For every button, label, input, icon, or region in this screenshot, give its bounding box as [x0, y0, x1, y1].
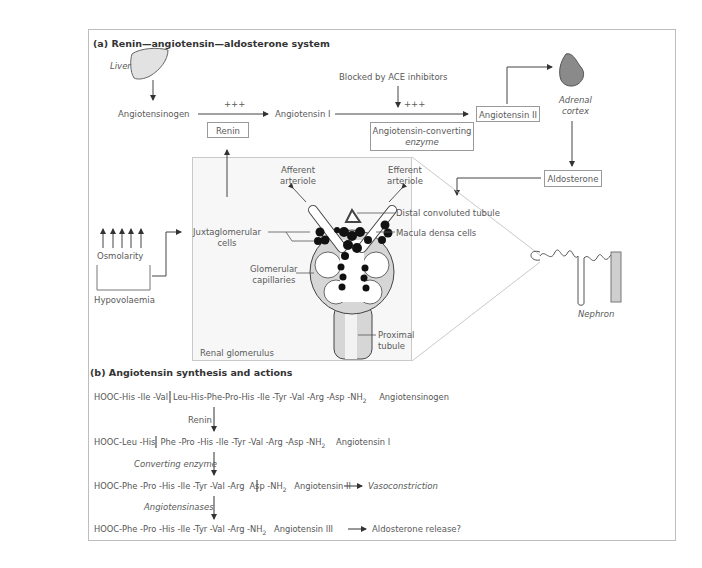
macula-densa-label: Macula densa cells	[396, 229, 476, 238]
sequence-row-angiotensin-ii: HOOC-Phe -Pro -His -Ile -Tyr -Val -ArgAs…	[94, 482, 351, 493]
proximal-line2: tubule	[378, 341, 414, 352]
renal-glomerulus-label: Renal glomerulus	[200, 349, 274, 358]
osmolarity-label: Osmolarity	[97, 252, 143, 261]
seq-sub: 2	[363, 397, 367, 404]
seq-left: HOOC-Leu -His	[94, 437, 155, 447]
efferent-arteriole-label: Efferent arteriole	[387, 165, 423, 187]
glomerular-capillaries-label: Glomerular capillaries	[250, 264, 298, 286]
seq-name: Angiotensin I	[336, 437, 390, 447]
angiotensin-ii-box: Angiotensin II	[476, 106, 540, 122]
plus-renin: +++	[224, 100, 245, 109]
effect-vasoconstriction: Vasoconstriction	[368, 482, 438, 491]
nephron-icon	[531, 250, 621, 305]
angiotensin-i-label: Angiotensin I	[275, 110, 331, 119]
seq-name: Angiotensinogen	[379, 392, 449, 402]
seq-right: Asp -NH	[249, 481, 282, 491]
seq-sub: 2	[322, 442, 326, 449]
sequence-row-angiotensinogen: HOOC-His -Ile -ValLeu-His-Phe-Pro-His -I…	[94, 393, 449, 404]
effect-aldosterone-release: Aldosterone release?	[372, 525, 461, 534]
juxta-line1: Juxtaglomerular	[193, 227, 261, 238]
proximal-line1: Proximal	[378, 330, 414, 341]
seq-sub: 2	[283, 486, 287, 493]
adrenal-line1: Adrenal	[559, 95, 592, 106]
seq-right: Leu-His-Phe-Pro-His -Ile -Tyr -Val -Arg …	[173, 392, 363, 402]
ace-box: Angiotensin-converting enzyme	[370, 122, 474, 151]
proximal-tubule-label: Proximal tubule	[378, 330, 414, 352]
efferent-line1: Efferent	[387, 165, 423, 176]
angiotensin-ii-label: Angiotensin II	[479, 110, 537, 120]
seq-sub: 2	[263, 529, 267, 536]
aldosterone-box: Aldosterone	[544, 170, 602, 187]
adrenal-cortex-label: Adrenal cortex	[559, 95, 592, 117]
adrenal-line2: cortex	[559, 106, 592, 117]
glom-line2: capillaries	[250, 275, 298, 286]
panel-b-title: (b) Angiotensin synthesis and actions	[90, 368, 293, 378]
aldosterone-label: Aldosterone	[548, 174, 599, 184]
ace-line2: enzyme	[371, 137, 473, 148]
seq-left: HOOC-Phe -Pro -His -Ile -Tyr -Val -Arg -…	[94, 524, 263, 534]
efferent-line2: arteriole	[387, 176, 423, 187]
afferent-arteriole-label: Afferent arteriole	[280, 165, 316, 187]
sequence-row-angiotensin-i: HOOC-Leu -HisPhe -Pro -His -Ile -Tyr -Va…	[94, 438, 390, 449]
afferent-line1: Afferent	[280, 165, 316, 176]
distal-tubule-label: Distal convoluted tubule	[396, 209, 500, 218]
enzyme-renin: Renin	[188, 416, 212, 425]
afferent-line2: arteriole	[280, 176, 316, 187]
juxtaglomerular-label: Juxtaglomerular cells	[193, 227, 261, 249]
liver-label: Liver	[110, 62, 131, 71]
juxta-line2: cells	[193, 238, 261, 249]
ace-inhibitors-label: Blocked by ACE inhibitors	[339, 73, 448, 82]
adrenal-gland-icon	[560, 54, 584, 86]
renin-box: Renin	[207, 122, 249, 138]
plus-ace: +++	[404, 100, 425, 109]
enzyme-converting: Converting enzyme	[134, 460, 217, 469]
seq-name: Angiotensin III	[274, 524, 333, 534]
nephron-label: Nephron	[578, 310, 614, 319]
sequence-row-angiotensin-iii: HOOC-Phe -Pro -His -Ile -Tyr -Val -Arg -…	[94, 525, 333, 536]
angiotensinogen-label: Angiotensinogen	[118, 110, 190, 119]
seq-left: HOOC-His -Ile -Val	[94, 392, 168, 402]
seq-right: Phe -Pro -His -Ile -Tyr -Val -Arg -Asp -…	[160, 437, 321, 447]
glom-line1: Glomerular	[250, 264, 298, 275]
enzyme-angiotensinases: Angiotensinases	[144, 503, 214, 512]
seq-left: HOOC-Phe -Pro -His -Ile -Tyr -Val -Arg	[94, 481, 244, 491]
liver-icon	[131, 48, 168, 79]
ace-line1: Angiotensin-converting	[371, 126, 473, 137]
seq-name: Angiotensin II	[294, 481, 351, 491]
hypovolaemia-label: Hypovolaemia	[94, 296, 155, 305]
renin-label: Renin	[216, 126, 240, 136]
